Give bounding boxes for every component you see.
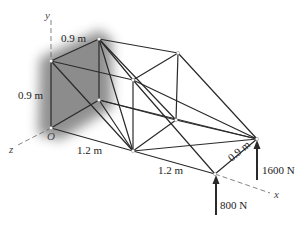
dim-left-height: 0.9 m: [18, 90, 43, 101]
dim-front-span-2: 1.2 m: [158, 165, 183, 176]
load-800n-label: 800 N: [220, 200, 247, 211]
x-axis-label: x: [274, 189, 279, 200]
space-truss-figure: y z x O 0.9 m 0.9 m 1.2 m 1.2 m 0.9 m 80…: [0, 0, 307, 230]
x-axis-line: [215, 174, 270, 193]
arrow-800n-head: [213, 175, 220, 184]
dim-front-span-1: 1.2 m: [77, 145, 102, 156]
origin-label: O: [47, 131, 55, 142]
y-axis-label: y: [45, 10, 50, 21]
truss-drawing: [0, 0, 307, 230]
dim-top-depth: 0.9 m: [61, 33, 86, 44]
z-axis-label: z: [9, 144, 13, 155]
load-1600n-label: 1600 N: [262, 165, 295, 176]
